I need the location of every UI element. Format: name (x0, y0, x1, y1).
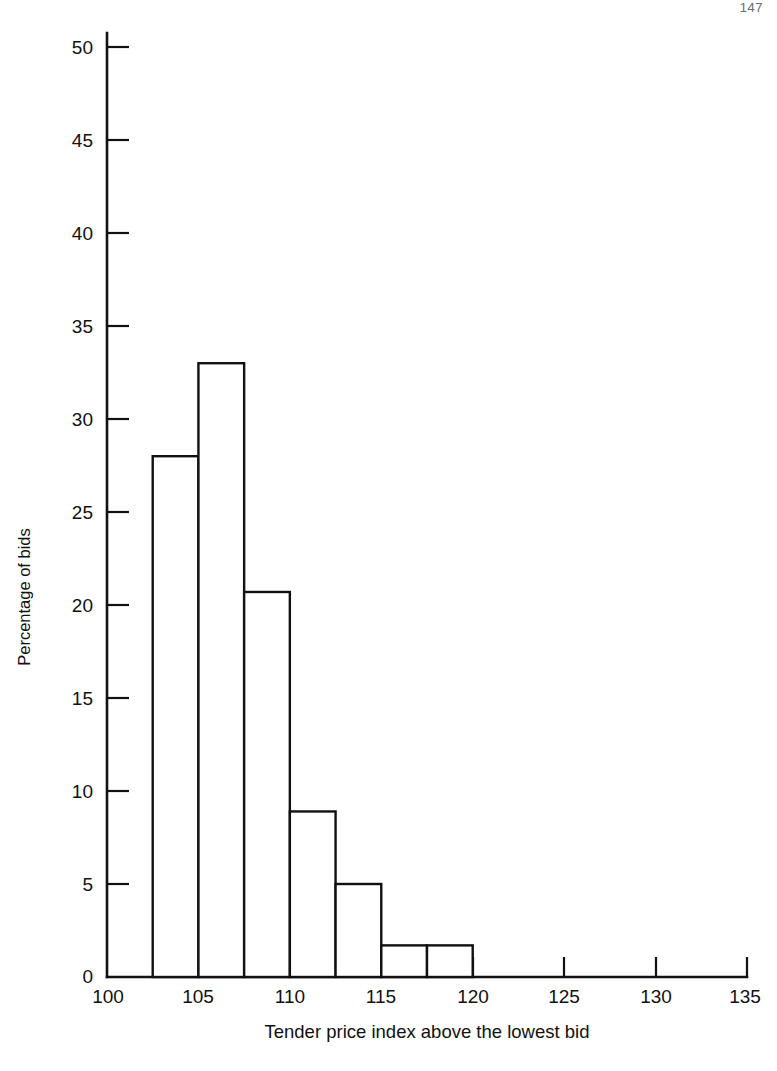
y-tick-label: 0 (82, 966, 93, 987)
x-tick-labels: 100 105 110 115 120 125 130 135 (92, 986, 761, 1007)
y-tick-label: 45 (72, 130, 93, 151)
x-tick-label: 120 (457, 986, 489, 1007)
histogram-figure: Percentage of bids 50 45 40 35 30 25 20 … (0, 0, 777, 1071)
y-tick-label: 50 (72, 37, 93, 58)
x-axis-title: Tender price index above the lowest bid (265, 1021, 590, 1042)
histogram-bar (244, 592, 290, 977)
histogram-bar (198, 363, 244, 977)
page-canvas: 147 Percentage of bids 50 45 40 35 30 25… (0, 0, 777, 1071)
x-tick-label: 115 (366, 986, 396, 1007)
x-tick-label: 100 (92, 986, 124, 1007)
y-tick-label: 5 (82, 874, 93, 895)
x-tick-label: 125 (548, 986, 580, 1007)
x-tick-label: 110 (275, 986, 305, 1007)
histogram-svg: Percentage of bids 50 45 40 35 30 25 20 … (0, 0, 777, 1071)
y-axis-ticks (107, 47, 129, 884)
x-tick-label: 105 (182, 986, 214, 1007)
y-axis-title: Percentage of bids (15, 528, 33, 666)
y-tick-label: 15 (72, 688, 93, 709)
y-tick-label: 35 (72, 316, 93, 337)
y-tick-label: 40 (72, 223, 93, 244)
y-tick-label: 10 (72, 781, 93, 802)
histogram-bar (336, 884, 382, 977)
x-tick-label: 130 (640, 986, 672, 1007)
histogram-bars (153, 363, 473, 977)
histogram-bar (290, 811, 336, 977)
histogram-bar (427, 945, 473, 977)
histogram-bar (153, 456, 199, 977)
x-tick-label: 135 (729, 986, 761, 1007)
y-tick-label: 20 (72, 595, 93, 616)
y-tick-labels: 50 45 40 35 30 25 20 15 10 5 0 (72, 37, 93, 987)
histogram-bar (381, 945, 427, 977)
y-tick-label: 30 (72, 409, 93, 430)
y-tick-label: 25 (72, 502, 93, 523)
